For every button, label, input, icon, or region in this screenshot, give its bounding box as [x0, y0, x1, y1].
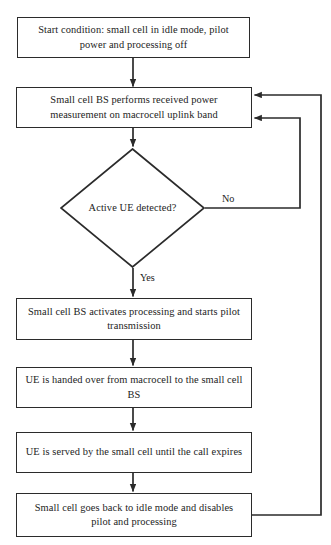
node-start-condition-text: Start condition: small cell in idle mode… — [18, 23, 249, 52]
node-handover: UE is handed over from macrocell to the … — [16, 367, 252, 408]
node-start-condition: Start condition: small cell in idle mode… — [17, 17, 250, 58]
node-measure-power: Small cell BS performs received power me… — [16, 87, 252, 128]
node-serve-until-expire: UE is served by the small cell until the… — [16, 432, 252, 473]
node-activate-processing-text: Small cell BS activates processing and s… — [17, 305, 251, 334]
node-decision-active-ue: Active UE detected? — [60, 148, 205, 268]
edge-label-no: No — [222, 193, 234, 205]
node-handover-text: UE is handed over from macrocell to the … — [17, 373, 251, 402]
node-measure-power-text: Small cell BS performs received power me… — [17, 93, 251, 122]
node-serve-until-expire-text: UE is served by the small cell until the… — [19, 445, 250, 460]
node-back-to-idle: Small cell goes back to idle mode and di… — [16, 493, 252, 537]
node-decision-active-ue-text: Active UE detected? — [89, 201, 177, 215]
node-activate-processing: Small cell BS activates processing and s… — [16, 298, 252, 340]
edge-label-yes: Yes — [140, 272, 155, 284]
connector-idle-to-measure-loop — [252, 95, 321, 515]
flowchart-diagram: Start condition: small cell in idle mode… — [0, 0, 331, 545]
connector-decision-no-to-measure — [205, 118, 300, 208]
node-back-to-idle-text: Small cell goes back to idle mode and di… — [17, 501, 251, 530]
